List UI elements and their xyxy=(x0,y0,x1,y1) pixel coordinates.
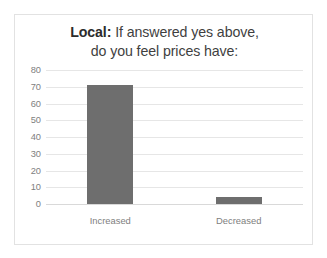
y-axis-tick-label: 30 xyxy=(11,149,41,159)
x-axis-tick-label: Decreased xyxy=(216,215,261,226)
y-axis-tick-label: 70 xyxy=(11,82,41,92)
chart-container: Local: If answered yes above, do you fee… xyxy=(14,14,313,245)
x-axis-tick-label: Increased xyxy=(90,215,131,226)
bar-decreased[interactable] xyxy=(216,197,262,204)
y-axis-tick-label: 10 xyxy=(11,182,41,192)
bar-increased[interactable] xyxy=(87,85,133,204)
chart-title-line-1-text: If answered yes above, xyxy=(111,24,259,40)
y-axis-tick-label: 50 xyxy=(11,115,41,125)
chart-title-line-2: do you feel prices have: xyxy=(15,42,314,61)
y-axis-tick-label: 40 xyxy=(11,132,41,142)
gridline xyxy=(46,204,303,205)
chart-title: Local: If answered yes above, do you fee… xyxy=(15,23,314,61)
chart-title-line-1: Local: If answered yes above, xyxy=(70,24,259,40)
y-axis-tick-label: 20 xyxy=(11,166,41,176)
y-axis-tick-label: 80 xyxy=(11,65,41,75)
chart-title-emphasis: Local: xyxy=(70,24,111,40)
bars-group xyxy=(46,70,303,204)
plot-area: 80706050403020100 IncreasedDecreased xyxy=(46,70,303,204)
y-axis-tick-label: 60 xyxy=(11,99,41,109)
y-axis-tick-label: 0 xyxy=(11,199,41,209)
